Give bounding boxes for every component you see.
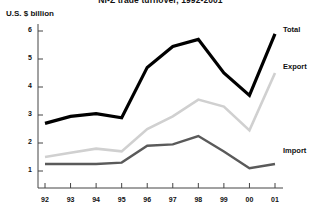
x-tick-label: 95 — [111, 196, 133, 203]
y-tick-label: 6 — [16, 26, 32, 33]
series-line-total — [45, 34, 275, 124]
trade-turnover-line-chart: NI-Z trade turnover, 1992-2001 U.S. $ bi… — [0, 0, 321, 217]
series-label-import: Import — [283, 146, 306, 155]
x-axis-ticks — [45, 183, 275, 188]
y-tick-label: 4 — [16, 82, 32, 89]
x-tick-label: 01 — [264, 196, 286, 203]
series-label-total: Total — [283, 25, 300, 34]
x-tick-label: 96 — [136, 196, 158, 203]
x-tick-label: 93 — [60, 196, 82, 203]
y-tick-label: 3 — [16, 110, 32, 117]
x-tick-label: 92 — [34, 196, 56, 203]
x-tick-label: 99 — [213, 196, 235, 203]
x-tick-label: 98 — [187, 196, 209, 203]
y-tick-label: 1 — [16, 166, 32, 173]
y-tick-label: 5 — [16, 54, 32, 61]
x-tick-label: 00 — [238, 196, 260, 203]
x-tick-label: 94 — [85, 196, 107, 203]
series-label-export: Export — [283, 62, 307, 71]
x-tick-label: 97 — [162, 196, 184, 203]
plot-area — [0, 0, 321, 217]
y-axis-ticks — [38, 31, 43, 171]
y-tick-label: 2 — [16, 138, 32, 145]
